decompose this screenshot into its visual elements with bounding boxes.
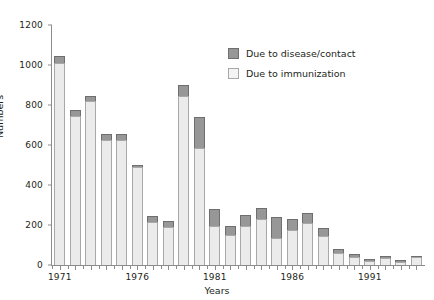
bar-1986 <box>287 219 298 265</box>
bar-segment-immunization <box>333 253 344 265</box>
bar-1981 <box>209 209 220 265</box>
bar-1971 <box>54 56 65 265</box>
bar-segment-immunization <box>287 230 298 265</box>
bar-1990 <box>349 254 360 265</box>
bar-1991 <box>364 259 375 265</box>
x-axis-tick-mark <box>184 266 185 270</box>
bar-1978 <box>163 221 174 265</box>
x-axis-tick-mark <box>339 266 340 270</box>
bar-segment-immunization <box>349 257 360 265</box>
bar-segment-immunization <box>85 101 96 265</box>
bar-segment-disease <box>178 85 189 96</box>
bar-segment-immunization <box>147 222 158 265</box>
y-axis-tick-label: 1200 <box>19 20 48 30</box>
bar-segment-disease <box>287 219 298 230</box>
legend-label-immunization: Due to immunization <box>246 68 346 79</box>
x-axis-minor-tick-mark <box>114 266 115 269</box>
x-axis-tick-mark <box>106 266 107 270</box>
bar-segment-disease <box>411 256 422 257</box>
x-axis-tick-mark <box>354 266 355 270</box>
x-axis-minor-tick-mark <box>331 266 332 269</box>
x-axis-tick-mark <box>153 266 154 270</box>
x-axis-minor-tick-mark <box>378 266 379 269</box>
bar-1984 <box>256 208 267 265</box>
bar-segment-disease <box>318 228 329 236</box>
bar-segment-immunization <box>364 261 375 265</box>
x-axis-minor-tick-mark <box>393 266 394 269</box>
x-axis-tick-mark <box>308 266 309 270</box>
x-axis-minor-tick-mark <box>362 266 363 269</box>
bar-segment-immunization <box>54 63 65 265</box>
bar-segment-immunization <box>240 226 251 265</box>
x-axis-tick-mark <box>230 266 231 270</box>
x-axis-tick-mark <box>370 266 371 270</box>
x-axis-minor-tick-mark <box>269 266 270 269</box>
x-axis-tick-label: 1971 <box>48 272 72 282</box>
bar-segment-immunization <box>163 227 174 265</box>
y-axis-tick-label: 0 <box>37 260 48 270</box>
x-axis-tick-label: 1976 <box>125 272 149 282</box>
x-axis-minor-tick-mark <box>347 266 348 269</box>
bar-1988 <box>318 228 329 265</box>
bar-segment-disease <box>116 134 127 140</box>
x-axis-tick-mark <box>385 266 386 270</box>
bar-segment-immunization <box>209 226 220 265</box>
bar-1989 <box>333 249 344 265</box>
y-axis-tick-label: 800 <box>25 100 48 110</box>
x-axis-minor-tick-mark <box>316 266 317 269</box>
x-axis-tick-label: 1991 <box>358 272 382 282</box>
x-axis-tick-mark <box>246 266 247 270</box>
chart-legend: Due to disease/contact Due to immunizati… <box>228 48 356 88</box>
bar-segment-disease <box>349 254 360 257</box>
bar-segment-immunization <box>178 96 189 265</box>
x-axis-minor-tick-mark <box>161 266 162 269</box>
legend-swatch-icon-immunization <box>228 68 239 79</box>
bar-1973 <box>85 96 96 265</box>
x-axis-minor-tick-mark <box>130 266 131 269</box>
bar-1987 <box>302 213 313 265</box>
bar-segment-immunization <box>194 148 205 265</box>
x-axis-minor-tick-mark <box>145 266 146 269</box>
y-axis-tick-label: 200 <box>25 220 48 230</box>
bar-segment-disease <box>85 96 96 101</box>
bar-segment-immunization <box>302 223 313 265</box>
bar-segment-immunization <box>318 236 329 265</box>
legend-item-immunization: Due to immunization <box>228 68 356 79</box>
bar-segment-disease <box>147 216 158 222</box>
x-axis-minor-tick-mark <box>192 266 193 269</box>
x-axis-tick-mark <box>416 266 417 270</box>
bar-1994 <box>411 256 422 265</box>
legend-label-disease: Due to disease/contact <box>246 48 356 59</box>
x-axis-tick-mark <box>261 266 262 270</box>
y-axis-tick-label: 600 <box>25 140 48 150</box>
bar-segment-disease <box>395 260 406 262</box>
x-axis-tick-mark <box>122 266 123 270</box>
bar-segment-immunization <box>256 219 267 265</box>
bar-1974 <box>101 134 112 265</box>
legend-item-disease: Due to disease/contact <box>228 48 356 59</box>
x-axis-minor-tick-mark <box>99 266 100 269</box>
bar-1983 <box>240 215 251 265</box>
bar-1985 <box>271 217 282 265</box>
bar-segment-disease <box>101 134 112 140</box>
x-axis-minor-tick-mark <box>254 266 255 269</box>
x-axis-title: Years <box>0 285 434 296</box>
bar-segment-disease <box>256 208 267 219</box>
bar-segment-immunization <box>380 258 391 265</box>
y-axis-tick-label: 400 <box>25 180 48 190</box>
bar-segment-disease <box>54 56 65 63</box>
x-axis-tick-mark <box>75 266 76 270</box>
bar-1979 <box>178 85 189 265</box>
bar-segment-immunization <box>271 238 282 265</box>
x-axis-tick-mark <box>215 266 216 270</box>
bar-1972 <box>70 110 81 265</box>
bar-segment-disease <box>70 110 81 116</box>
chart-container: Numbers Years 020040060080010001200 1971… <box>0 0 434 300</box>
bar-segment-disease <box>225 226 236 235</box>
y-axis-tick-label: 1000 <box>19 60 48 70</box>
x-axis-minor-tick-mark <box>285 266 286 269</box>
bar-1975 <box>116 134 127 265</box>
bar-segment-disease <box>132 165 143 167</box>
x-axis-minor-tick-mark <box>83 266 84 269</box>
x-axis-tick-mark <box>277 266 278 270</box>
